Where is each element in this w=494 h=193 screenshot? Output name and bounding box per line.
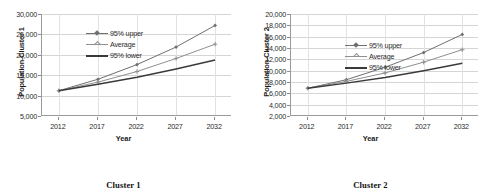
y-tick-label: 20,000 [16, 50, 37, 59]
y-tick-mark [287, 82, 290, 83]
legend-swatch-icon [345, 41, 367, 50]
y-tick-mark [287, 71, 290, 72]
y-tick-label: 2,000 [269, 112, 286, 121]
x-tick-mark [214, 117, 215, 120]
x-tick-mark [423, 117, 424, 120]
y-tick-label: 5,000 [20, 112, 37, 121]
y-tick-mark [287, 25, 290, 26]
y-tick-mark [287, 59, 290, 60]
y-tick-mark [287, 116, 290, 117]
legend-swatch-icon [86, 40, 108, 49]
legend-label: 95% lower [369, 63, 401, 72]
x-tick-label: 2012 [299, 122, 314, 131]
y-tick-label: 18,000 [265, 21, 286, 30]
x-tick-mark [307, 117, 308, 120]
data-point-marker [135, 63, 139, 67]
y-tick-label: 16,000 [265, 32, 286, 41]
y-tick-mark [287, 105, 290, 106]
y-tick-mark [287, 93, 290, 94]
legend-swatch-icon [86, 29, 108, 38]
panel-caption: Cluster 2 [247, 180, 494, 190]
data-point-marker [213, 24, 217, 28]
legend-item[interactable]: 95% lower [345, 62, 402, 73]
two-panel-figure: Population-Cluster 1 5,00010,00015,00020… [0, 0, 494, 193]
y-tick-label: 10,000 [16, 91, 37, 100]
y-axis-title: Population-Cluster 1 [16, 0, 28, 124]
y-tick-mark [38, 75, 41, 76]
legend-item[interactable]: 95% upper [86, 28, 143, 39]
legend-label: 95% lower [110, 51, 142, 60]
legend: 95% upperAverage95% lower [86, 28, 143, 61]
chart-panel-cluster-2: Population-Cluster 2 2,0004,0006,0008,00… [247, 0, 494, 193]
x-tick-mark [461, 117, 462, 120]
y-tick-label: 12,000 [265, 55, 286, 64]
legend-label: Average [110, 40, 135, 49]
legend-swatch-icon [345, 63, 367, 72]
y-tick-mark [38, 96, 41, 97]
x-tick-label: 2012 [50, 122, 65, 131]
data-point-marker [422, 51, 426, 55]
x-tick-label: 2032 [454, 122, 469, 131]
x-tick-label: 2017 [338, 122, 353, 131]
legend-label: 95% upper [369, 41, 402, 50]
chart-cluster-1: Population-Cluster 1 5,00010,00015,00020… [0, 0, 247, 165]
chart-panel-cluster-1: Population-Cluster 1 5,00010,00015,00020… [0, 0, 247, 193]
x-axis-title: Year [247, 134, 494, 143]
legend-item[interactable]: Average [345, 51, 402, 62]
x-tick-label: 2022 [128, 122, 143, 131]
data-point-marker [460, 33, 464, 37]
y-tick-mark [287, 48, 290, 49]
y-tick-mark [38, 14, 41, 15]
x-tick-label: 2027 [167, 122, 182, 131]
data-point-marker [174, 56, 178, 60]
legend-item[interactable]: 95% upper [345, 40, 402, 51]
y-tick-label: 14,000 [265, 44, 286, 53]
y-tick-label: 8,000 [269, 78, 286, 87]
x-tick-label: 2017 [89, 122, 104, 131]
x-tick-mark [175, 117, 176, 120]
data-point-marker [174, 45, 178, 49]
legend-label: Average [369, 52, 394, 61]
data-point-marker [460, 48, 464, 52]
legend-swatch-icon [345, 52, 367, 61]
x-tick-mark [345, 117, 346, 120]
y-tick-label: 25,000 [16, 30, 37, 39]
panel-caption: Cluster 1 [0, 180, 247, 190]
y-tick-mark [287, 37, 290, 38]
y-tick-mark [38, 34, 41, 35]
y-tick-mark [38, 55, 41, 56]
legend-swatch-icon [86, 51, 108, 60]
x-tick-mark [384, 117, 385, 120]
x-tick-label: 2032 [207, 122, 222, 131]
legend-item[interactable]: 95% lower [86, 50, 143, 61]
y-tick-mark [38, 116, 41, 117]
chart-cluster-2: Population-Cluster 2 2,0004,0006,0008,00… [247, 0, 494, 165]
data-point-marker [213, 42, 217, 46]
y-tick-label: 30,000 [16, 10, 37, 19]
y-tick-label: 6,000 [269, 89, 286, 98]
x-tick-mark [136, 117, 137, 120]
data-point-marker [421, 60, 425, 64]
y-tick-label: 4,000 [269, 100, 286, 109]
x-tick-label: 2027 [415, 122, 430, 131]
x-tick-mark [97, 117, 98, 120]
x-axis-title: Year [0, 134, 247, 143]
data-point-marker [135, 69, 139, 73]
y-tick-label: 20,000 [265, 10, 286, 19]
y-tick-mark [287, 14, 290, 15]
legend-label: 95% upper [110, 29, 143, 38]
x-tick-mark [58, 117, 59, 120]
x-tick-label: 2022 [376, 122, 391, 131]
y-tick-label: 15,000 [16, 71, 37, 80]
y-tick-label: 10,000 [265, 66, 286, 75]
legend-item[interactable]: Average [86, 39, 143, 50]
legend: 95% upperAverage95% lower [345, 40, 402, 73]
